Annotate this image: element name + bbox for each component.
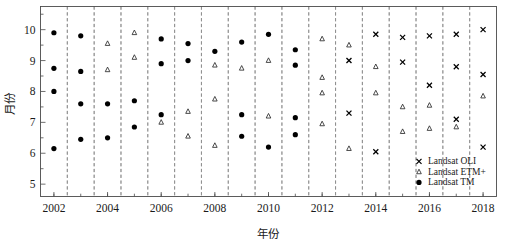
data-point-tm (185, 41, 190, 46)
data-point-tm (293, 132, 298, 137)
chart-canvas: 200220042006200820102012201420162018 567… (0, 0, 507, 244)
y-tick-label: 9 (30, 55, 36, 67)
data-point-oli (427, 33, 432, 38)
data-point-tm (105, 135, 110, 140)
data-point-oli (481, 145, 486, 150)
x-tick-labels: 200220042006200820102012201420162018 (42, 202, 494, 214)
legend-label-landsat-oli: Landsat OLI (428, 156, 476, 166)
data-point-etm (481, 93, 486, 98)
data-point-etm (454, 124, 459, 129)
x-tick-label: 2012 (311, 202, 334, 214)
data-point-tm (78, 33, 83, 38)
data-point-oli (373, 149, 378, 154)
data-point-etm (159, 120, 164, 125)
data-point-tm (185, 58, 190, 63)
data-point-etm (105, 41, 110, 46)
data-point-etm (213, 96, 218, 101)
data-point-etm (427, 126, 432, 131)
data-point-etm (347, 146, 352, 151)
data-point-tm (51, 30, 56, 35)
data-point-etm (213, 62, 218, 67)
data-point-etm (105, 67, 110, 72)
data-point-oli (400, 60, 405, 65)
data-point-oli (400, 35, 405, 40)
data-point-oli (373, 32, 378, 37)
legend: Landsat OLILandsat ETM+Landsat TM (416, 156, 485, 187)
data-point-tm (416, 180, 421, 185)
x-tick-label: 2002 (42, 202, 65, 214)
data-point-tm (239, 134, 244, 139)
data-point-tm (51, 89, 56, 94)
y-tick-label: 7 (30, 116, 36, 128)
x-tick-label: 2010 (257, 202, 280, 214)
data-point-oli (346, 58, 351, 63)
data-point-etm (320, 36, 325, 41)
data-point-tm (239, 112, 244, 117)
y-axis-title: 月份 (4, 92, 16, 115)
data-point-oli (454, 64, 459, 69)
data-point-tm (78, 69, 83, 74)
y-tick-label: 8 (30, 85, 36, 97)
data-point-etm (373, 64, 378, 69)
data-point-etm (132, 30, 137, 35)
data-point-tm (51, 146, 56, 151)
y-tick-label: 6 (30, 147, 36, 159)
data-point-etm (186, 109, 191, 114)
data-point-tm (159, 61, 164, 66)
data-point-tm (293, 47, 298, 52)
data-point-etm (373, 90, 378, 95)
x-axis-title: 年份 (257, 227, 280, 240)
data-point-etm (320, 121, 325, 126)
legend-label-landsat-tm: Landsat TM (428, 177, 475, 187)
data-point-oli (427, 83, 432, 88)
data-point-tm (159, 36, 164, 41)
data-point-tm (132, 124, 137, 129)
data-point-etm (186, 134, 191, 139)
data-point-oli (417, 159, 422, 164)
x-tick-label: 2006 (150, 202, 173, 214)
data-point-tm (132, 98, 137, 103)
data-point-tm (266, 144, 271, 149)
data-point-etm (427, 103, 432, 108)
data-point-tm (51, 66, 56, 71)
data-point-oli (481, 72, 486, 77)
data-point-etm (266, 58, 271, 63)
data-point-tm (293, 115, 298, 120)
legend-label-landsat-etm-: Landsat ETM+ (428, 167, 486, 177)
data-point-tm (212, 49, 217, 54)
data-point-etm (347, 42, 352, 47)
data-point-oli (454, 32, 459, 37)
data-point-etm (400, 129, 405, 134)
data-point-etm (417, 169, 422, 174)
y-tick-label: 5 (30, 178, 36, 190)
y-tick-labels: 5678910 (24, 24, 36, 190)
x-tick-label: 2004 (96, 202, 119, 214)
data-point-etm (320, 75, 325, 80)
data-point-etm (400, 104, 405, 109)
scatter-chart: 200220042006200820102012201420162018 567… (0, 0, 507, 244)
data-point-tm (293, 63, 298, 68)
data-points (51, 27, 485, 154)
data-point-oli (481, 27, 486, 32)
data-point-etm (320, 90, 325, 95)
data-point-tm (266, 32, 271, 37)
x-tick-label: 2008 (203, 202, 226, 214)
x-tick-label: 2016 (418, 202, 441, 214)
data-point-etm (266, 113, 271, 118)
data-point-etm (213, 143, 218, 148)
data-point-etm (132, 55, 137, 60)
data-point-tm (78, 101, 83, 106)
data-point-tm (159, 112, 164, 117)
x-tick-label: 2018 (472, 202, 495, 214)
data-point-oli (454, 117, 459, 122)
y-tick-label: 10 (24, 24, 36, 36)
data-point-tm (78, 137, 83, 142)
x-tick-label: 2014 (364, 202, 387, 214)
data-point-oli (346, 111, 351, 116)
data-point-tm (105, 101, 110, 106)
data-point-tm (239, 39, 244, 44)
data-point-etm (239, 66, 244, 71)
